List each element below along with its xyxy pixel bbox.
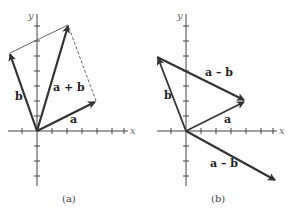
parallelogram-top-edge	[10, 25, 68, 53]
y-axis-label: y	[176, 10, 183, 21]
caption-b: (b)	[211, 193, 225, 204]
vector-diagram: x y a b a + b (a)	[0, 0, 294, 215]
label-a-minus-b-bottom: a – b	[210, 157, 238, 170]
y-axis-label: y	[27, 10, 34, 21]
x-axis-label: x	[279, 125, 285, 136]
label-a-minus-b-top: a – b	[205, 66, 233, 79]
panel-a: x y a b a + b (a)	[8, 10, 136, 204]
label-a: a	[224, 113, 231, 126]
vector-a	[37, 102, 95, 131]
label-a-plus-b: a + b	[53, 81, 85, 94]
vector-a-plus-b	[37, 26, 68, 131]
label-a: a	[70, 113, 77, 126]
vector-a-minus-b	[186, 131, 275, 180]
panel-a-axes: x y	[8, 10, 136, 186]
vector-a	[186, 102, 244, 131]
label-b: b	[164, 89, 172, 102]
label-b: b	[15, 90, 23, 103]
panel-b: x y a b a – b a – b (b)	[157, 10, 285, 204]
x-axis-label: x	[130, 125, 136, 136]
caption-a: (a)	[62, 193, 76, 204]
